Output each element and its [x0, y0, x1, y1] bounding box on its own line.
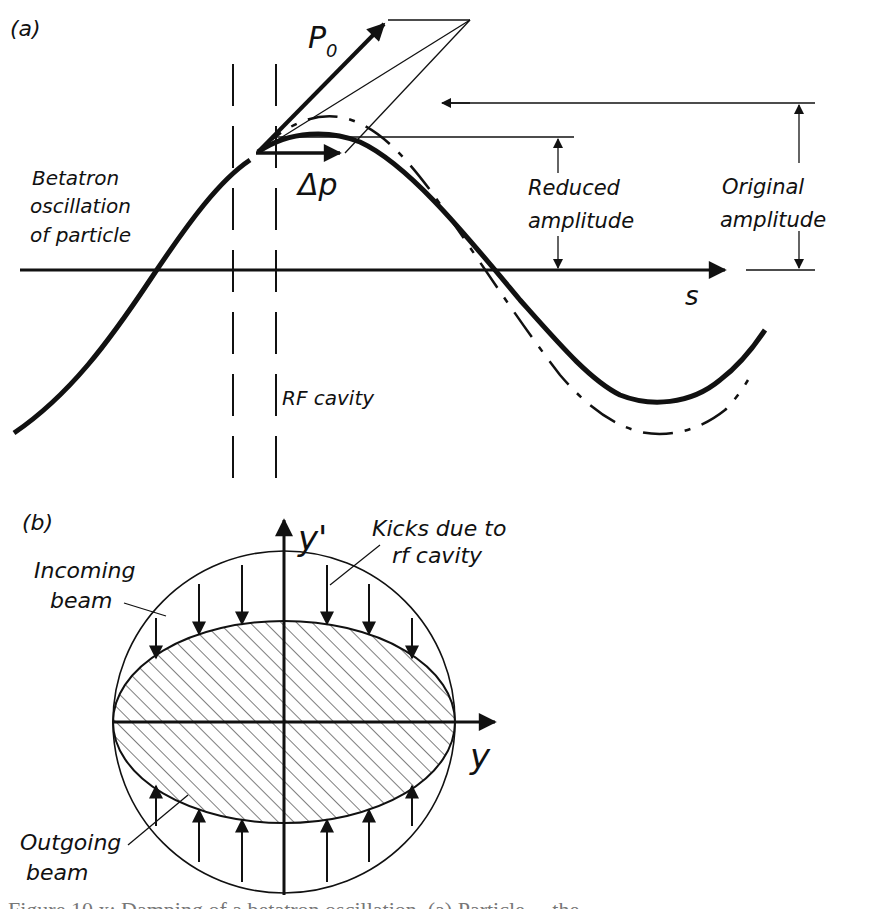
kicks-label-line2: rf cavity — [392, 543, 483, 568]
s-axis-label: s — [685, 281, 699, 311]
betatron-label-line1: Betatron — [32, 166, 119, 190]
rf-damping-figure: (a) s RF cavity P0 Δp Original amplitude — [0, 0, 879, 909]
betatron-label-line2: oscillation — [30, 194, 131, 218]
incoming-label-line2: beam — [50, 588, 112, 613]
p0-label: P0 — [308, 20, 338, 61]
original-amplitude-label-line1: Original — [722, 175, 804, 199]
reduced-amplitude-label-line2: amplitude — [528, 209, 634, 233]
delta-p-label: Δp — [296, 167, 338, 202]
y-axis-label: y — [469, 736, 491, 776]
betatron-label-line3: of particle — [30, 223, 131, 247]
reduced-amplitude-label-line1: Reduced — [528, 176, 621, 200]
figure-caption: Figure 10.x: Damping of a betatron oscil… — [8, 893, 878, 909]
incoming-label-line1: Incoming — [34, 558, 135, 583]
original-amplitude-label-line2: amplitude — [720, 208, 826, 232]
outgoing-label-line1: Outgoing — [20, 830, 121, 855]
panel-a: (a) s RF cavity P0 Δp Original amplitude — [10, 16, 826, 498]
panel-b: (b) y' y Kicks due to rf — [20, 510, 506, 895]
kicks-label-line1: Kicks due to — [372, 516, 506, 541]
panel-b-label: (b) — [22, 510, 53, 535]
rf-cavity-label: RF cavity — [282, 386, 375, 410]
outgoing-label-line2: beam — [26, 860, 88, 885]
y-prime-axis-label: y' — [297, 518, 327, 558]
panel-a-label: (a) — [10, 16, 41, 41]
kicks-leader-line — [330, 545, 380, 585]
